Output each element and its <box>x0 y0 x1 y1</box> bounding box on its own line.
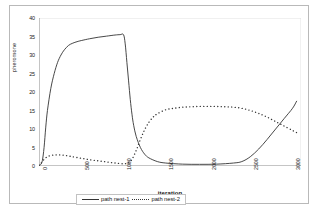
y-tick-label: 20 <box>29 88 35 96</box>
chart-canvas <box>39 18 301 166</box>
plot-area: pheromone 0510152025303540 0500100015002… <box>39 18 301 166</box>
chart-figure: pheromone 0510152025303540 0500100015002… <box>9 5 309 204</box>
y-tick-label: 25 <box>29 70 35 78</box>
legend-label-nest-2: path nest-2 <box>151 196 179 202</box>
y-tick-label: 30 <box>29 51 35 59</box>
x-axis-tick-labels: 050010001500200025003000 <box>39 168 301 192</box>
legend-label-nest-1: path nest-1 <box>101 196 129 202</box>
y-axis-tick-labels: 0510152025303540 <box>18 13 37 171</box>
x-tick-label: 500 <box>84 161 90 170</box>
x-tick-label: 1000 <box>126 158 132 170</box>
plot-frame <box>39 18 301 166</box>
series-path-nest-1 <box>39 34 297 165</box>
x-tick-label: 0 <box>42 167 48 170</box>
y-tick-label: 40 <box>29 14 35 22</box>
y-tick-label: 5 <box>32 144 35 152</box>
y-tick-label: 35 <box>29 33 35 41</box>
x-tick-label: 3000 <box>295 158 301 170</box>
x-tick-label: 1500 <box>168 158 174 170</box>
series-path-nest-2 <box>39 106 297 165</box>
chart-legend: path nest-1 path nest-2 <box>76 194 186 205</box>
y-tick-label: 0 <box>32 162 35 170</box>
legend-swatch-dotted-line-icon <box>132 199 149 200</box>
y-tick-label: 10 <box>29 125 35 133</box>
y-tick-label: 15 <box>29 107 35 115</box>
legend-swatch-solid-line-icon <box>82 199 99 200</box>
y-axis-title: pheromone <box>11 43 17 72</box>
legend-entry-nest-2: path nest-2 <box>132 196 179 202</box>
x-tick-label: 2000 <box>211 158 217 170</box>
legend-entry-nest-1: path nest-1 <box>82 196 129 202</box>
x-tick-label: 2500 <box>253 158 259 170</box>
